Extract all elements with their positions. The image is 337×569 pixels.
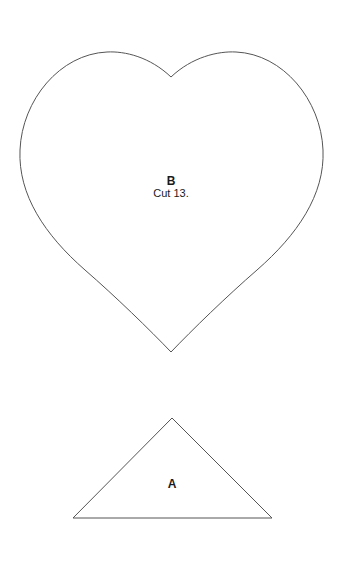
piece-b-cut-instruction: Cut 13. — [121, 187, 221, 200]
piece-a-letter: A — [122, 478, 222, 491]
triangle-piece-a-outline — [73, 418, 272, 518]
heart-piece-b-outline — [20, 52, 323, 352]
